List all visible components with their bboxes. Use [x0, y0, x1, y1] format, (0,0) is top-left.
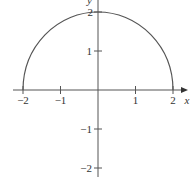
x-tick-label: −2	[17, 94, 29, 106]
y-tick-label: 2	[88, 6, 94, 18]
semicircle-plot: −2 −1 1 2 −2 −1 1 2 x y	[0, 0, 194, 177]
y-tick-label: −1	[80, 123, 92, 135]
y-axis-label: y	[86, 0, 92, 6]
x-axis-arrow-icon	[181, 87, 188, 93]
y-tick-label: −2	[80, 162, 92, 174]
x-tick-label: −1	[55, 94, 67, 106]
x-tick-label: 1	[133, 94, 139, 106]
y-tick-label: 1	[87, 45, 93, 57]
x-tick-label: 2	[170, 94, 176, 106]
x-axis-label: x	[184, 94, 190, 106]
